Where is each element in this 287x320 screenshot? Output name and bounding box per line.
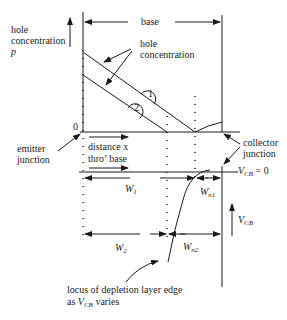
distance-label-2: thro’ base [88, 153, 127, 164]
hole-concentration-axis-label-1: hole [11, 24, 28, 35]
distance-label-1: distance x [88, 141, 128, 152]
emitter-junction-label-2: junction [17, 154, 50, 165]
hole-concentration-curve-1 [83, 52, 195, 132]
origin-label: 0 [73, 121, 78, 132]
hole-conc-pointer-2 [106, 51, 132, 85]
hole-concentration-curve-label-2: concentration [140, 49, 194, 60]
locus-label-1: locus of depletion layer edge [67, 284, 183, 295]
collector-junction-pointer-2 [224, 147, 240, 164]
wn1-label: Wn1 [200, 186, 215, 201]
locus-pointer [126, 261, 158, 282]
vcb-label: VCB [238, 214, 253, 229]
collector-junction-pointer-1 [224, 134, 240, 144]
emitter-junction-label-1: emitter [17, 143, 45, 154]
hole-concentration-axis-symbol: p [11, 46, 16, 57]
hole-concentration-curve-label-1: hole [140, 38, 157, 49]
w2-label: W2 [115, 242, 127, 257]
curve-1-label: 1 [148, 88, 153, 99]
collector-junction-label-2: junction [243, 148, 276, 159]
curve-2-label: 2 [134, 102, 139, 113]
depletion-curve-top [195, 122, 222, 132]
vcb-zero-label: VCB = 0 [238, 165, 269, 180]
hole-conc-pointer-1 [104, 49, 131, 62]
locus-label-2: as VCB varies [67, 296, 119, 311]
wn2-label: Wn2 [183, 241, 198, 256]
emitter-junction-pointer [58, 134, 80, 151]
collector-junction-label-1: collector [243, 137, 278, 148]
hole-concentration-axis-label-2: concentration [11, 35, 65, 46]
w1-label: W1 [125, 183, 137, 198]
base-label: base [141, 16, 159, 27]
